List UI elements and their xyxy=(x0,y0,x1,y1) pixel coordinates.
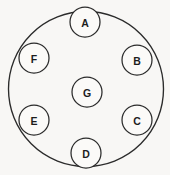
node-label-c: C xyxy=(133,115,141,127)
node-label-d: D xyxy=(82,148,90,160)
node-label-a: A xyxy=(81,17,89,29)
node-label-f: F xyxy=(31,53,38,65)
node-a[interactable]: A xyxy=(70,7,100,37)
node-group: ABCDEFG xyxy=(19,7,152,168)
node-label-g: G xyxy=(83,87,91,99)
circle-diagram: ABCDEFG xyxy=(0,0,170,175)
node-c[interactable]: C xyxy=(122,105,152,135)
node-e[interactable]: E xyxy=(19,105,49,135)
node-label-e: E xyxy=(30,115,37,127)
node-f[interactable]: F xyxy=(19,43,49,73)
node-g[interactable]: G xyxy=(72,77,102,107)
node-b[interactable]: B xyxy=(122,45,152,75)
diagram-container: ABCDEFG xyxy=(0,0,170,175)
node-label-b: B xyxy=(133,55,141,67)
node-d[interactable]: D xyxy=(71,138,101,168)
